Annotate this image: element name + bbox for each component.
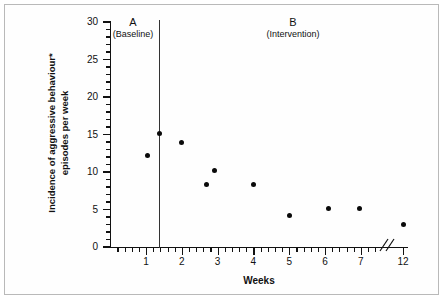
y-tick-minor <box>106 201 111 202</box>
x-tick-minor <box>153 248 154 252</box>
y-axis-title: Incidence of aggressive behaviour* episo… <box>45 23 71 243</box>
y-tick-label: 10 <box>72 167 98 177</box>
x-tick-major <box>289 248 290 255</box>
y-tick-minor <box>106 141 111 142</box>
x-tick-minor <box>339 248 340 252</box>
x-tick-minor <box>117 248 118 252</box>
x-tick-minor <box>225 248 226 252</box>
data-point <box>251 182 256 187</box>
x-tick-minor <box>132 248 133 252</box>
data-point <box>145 153 150 158</box>
x-tick-minor <box>347 248 348 252</box>
x-tick-major <box>253 248 254 255</box>
x-axis-line <box>110 247 408 248</box>
chart-canvas: Incidence of aggressive behaviour* episo… <box>0 0 445 301</box>
x-tick-minor <box>368 248 369 252</box>
x-tick-minor <box>318 248 319 252</box>
x-tick-minor <box>175 248 176 252</box>
x-tick-minor <box>268 248 269 252</box>
x-tick-minor <box>275 248 276 252</box>
x-tick-label: 2 <box>169 257 195 267</box>
y-tick-minor <box>106 194 111 195</box>
x-tick-label: 7 <box>348 257 374 267</box>
y-tick-minor <box>106 89 111 90</box>
y-tick-minor <box>106 104 111 105</box>
x-tick-minor <box>239 248 240 252</box>
x-tick-minor <box>332 248 333 252</box>
x-tick-minor <box>125 248 126 252</box>
data-point <box>212 168 217 173</box>
y-tick-major <box>103 59 111 60</box>
phase-b-letter: B <box>228 16 358 29</box>
x-tick-minor <box>282 248 283 252</box>
y-tick-minor <box>106 149 111 150</box>
y-tick-minor <box>106 179 111 180</box>
y-tick-label: 5 <box>72 205 98 215</box>
y-tick-label: 30 <box>72 17 98 27</box>
y-tick-major <box>103 96 111 97</box>
y-tick-minor <box>106 74 111 75</box>
x-axis-title: Weeks <box>110 275 408 286</box>
x-tick-minor <box>160 248 161 252</box>
x-tick-minor <box>232 248 233 252</box>
x-tick-minor <box>196 248 197 252</box>
y-tick-major <box>103 171 111 172</box>
x-tick-minor <box>168 248 169 252</box>
y-tick-major <box>103 134 111 135</box>
x-tick-label: 3 <box>205 257 231 267</box>
y-tick-minor <box>106 44 111 45</box>
x-tick-minor <box>210 248 211 252</box>
x-tick-minor <box>203 248 204 252</box>
y-tick-minor <box>106 186 111 187</box>
x-tick-minor <box>261 248 262 252</box>
y-tick-minor <box>106 231 111 232</box>
data-point <box>157 131 162 136</box>
phase-a-sublabel: (Baseline) <box>108 29 158 40</box>
x-tick-label: 1 <box>133 257 159 267</box>
x-tick-label: 5 <box>276 257 302 267</box>
x-tick-minor <box>304 248 305 252</box>
x-tick-major <box>146 248 147 255</box>
phase-a-letter: A <box>108 16 158 29</box>
data-point <box>401 222 406 227</box>
x-tick-label: 6 <box>312 257 338 267</box>
x-tick-minor <box>189 248 190 252</box>
data-point <box>326 206 331 211</box>
x-tick-label: 4 <box>240 257 266 267</box>
x-tick-major <box>218 248 219 255</box>
x-tick-major <box>325 248 326 255</box>
x-axis-break-icon <box>376 238 398 252</box>
y-tick-label: 0 <box>72 242 98 252</box>
y-tick-minor <box>106 224 111 225</box>
x-tick-minor <box>139 248 140 252</box>
x-tick-minor <box>354 248 355 252</box>
y-tick-minor <box>106 126 111 127</box>
y-tick-minor <box>106 239 111 240</box>
y-tick-minor <box>106 81 111 82</box>
y-tick-minor <box>106 164 111 165</box>
x-tick-minor <box>296 248 297 252</box>
x-tick-minor <box>311 248 312 252</box>
y-axis-title-line1: Incidence of aggressive behaviour* <box>46 53 57 212</box>
y-tick-major <box>103 209 111 210</box>
y-tick-minor <box>106 51 111 52</box>
y-tick-label: 25 <box>72 55 98 65</box>
y-tick-minor <box>106 156 111 157</box>
y-tick-minor <box>106 66 111 67</box>
phase-label-a: A (Baseline) <box>108 16 158 40</box>
y-tick-minor <box>106 111 111 112</box>
phase-b-sublabel: (Intervention) <box>228 29 358 40</box>
x-tick-major <box>361 248 362 255</box>
y-tick-minor <box>106 119 111 120</box>
y-axis-title-line2: episodes per week <box>59 91 70 175</box>
y-tick-minor <box>106 216 111 217</box>
x-tick-minor <box>246 248 247 252</box>
data-point <box>204 182 209 187</box>
data-point <box>357 206 362 211</box>
data-point <box>287 213 292 218</box>
data-point <box>179 140 184 145</box>
phase-label-b: B (Intervention) <box>228 16 358 40</box>
y-tick-label: 20 <box>72 92 98 102</box>
y-tick-label: 15 <box>72 130 98 140</box>
x-tick-major <box>182 248 183 255</box>
